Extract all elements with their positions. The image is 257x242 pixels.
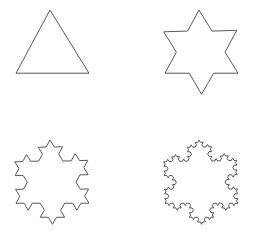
koch-iteration-1 bbox=[164, 10, 238, 94]
koch-iteration-2 bbox=[15, 140, 89, 224]
koch-iteration-3 bbox=[164, 140, 238, 224]
koch-iteration-0 bbox=[16, 10, 89, 73]
koch-snowflake-grid bbox=[0, 0, 257, 242]
koch-paths-group bbox=[15, 10, 238, 224]
koch-figure-panel bbox=[0, 0, 257, 242]
